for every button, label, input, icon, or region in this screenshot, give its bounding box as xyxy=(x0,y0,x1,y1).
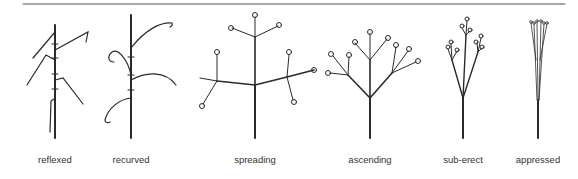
appressed-figure xyxy=(530,20,549,138)
label-sub-erect: sub-erect xyxy=(443,154,483,165)
label-ascending: ascending xyxy=(348,154,391,165)
ascending-figure xyxy=(326,30,421,139)
recurved-figure xyxy=(105,15,176,138)
reflexed-figure xyxy=(27,25,88,138)
orientation-diagram xyxy=(0,0,578,179)
label-reflexed: reflexed xyxy=(38,154,72,165)
label-recurved: recurved xyxy=(113,154,150,165)
sub-erect-figure xyxy=(446,17,484,138)
spreading-figure xyxy=(200,13,317,139)
label-spreading: spreading xyxy=(234,154,276,165)
label-appressed: appressed xyxy=(516,154,560,165)
